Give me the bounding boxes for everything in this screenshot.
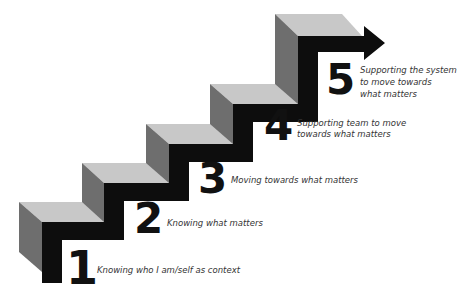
step-4-label-line-1: Supporting team to move	[297, 118, 406, 128]
step-3-number: 3	[198, 154, 227, 203]
step-2-number: 2	[134, 194, 163, 243]
step-1-label: Knowing who I am/self as context	[97, 265, 241, 275]
step-5-label-line-1: Supporting the system	[360, 65, 457, 75]
step-1-number: 1	[66, 241, 98, 295]
staircase-diagram: 1 2 3 4 5 Knowing who I am/self as conte…	[0, 0, 463, 297]
step-5-label-line-3: what matters	[360, 89, 417, 99]
step-4-label-line-2: towards what matters	[297, 129, 391, 139]
step-3-label: Moving towards what matters	[231, 175, 359, 185]
step-5-label-line-2: to move towards	[360, 77, 432, 87]
step-5-number: 5	[326, 55, 355, 104]
step-2-label: Knowing what matters	[167, 218, 263, 228]
step-4-number: 4	[264, 101, 293, 150]
